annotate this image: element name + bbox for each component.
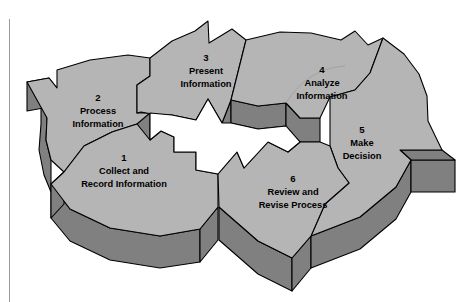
step-number-3: 3 [203, 52, 208, 63]
step-text-2-line1: Process [80, 106, 116, 116]
step-text-2-line2: Information [72, 119, 123, 129]
step-text-4-line2: Information [296, 91, 347, 101]
step-number-5: 5 [359, 124, 365, 135]
step-text-1-line2: Record Information [81, 179, 167, 189]
step-number-4: 4 [319, 64, 325, 75]
step-text-5-line1: Make [350, 138, 373, 148]
process-cycle-diagram: 1 Collect and Record Information 2 Proce… [0, 0, 474, 302]
step-number-1: 1 [121, 152, 127, 163]
diagram-canvas: 1 Collect and Record Information 2 Proce… [0, 0, 474, 302]
step-text-4-line1: Analyze [304, 78, 339, 88]
step-text-3-line1: Present [189, 66, 223, 76]
step-text-6-line1: Review and [267, 187, 318, 197]
step-number-2: 2 [95, 92, 100, 103]
step-text-1-line1: Collect and [99, 166, 149, 176]
step-number-6: 6 [290, 173, 295, 184]
step-text-6-line2: Revise Process [259, 200, 328, 210]
side-face-segment-5-block [411, 160, 455, 192]
step-text-3-line2: Information [180, 79, 231, 89]
step-text-5-line2: Decision [343, 151, 382, 161]
